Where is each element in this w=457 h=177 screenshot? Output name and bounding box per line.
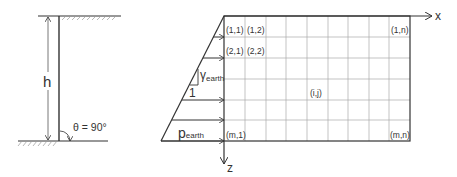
slope-run-label: 1 — [189, 86, 196, 100]
x-axis-label: x — [435, 9, 441, 23]
bottom-ground-hatch — [18, 141, 57, 146]
diagram-canvas: h θ = 90° x z — [0, 0, 457, 177]
height-label: h — [43, 73, 51, 90]
cell-label-m-1: (m,1) — [226, 130, 246, 140]
z-axis-label: z — [227, 161, 233, 175]
retaining-wall-figure: h θ = 90° — [18, 16, 121, 146]
slope-triangle — [190, 69, 198, 85]
cell-label-i-j: (i,j) — [310, 88, 322, 98]
slope-gamma: γearth — [200, 68, 224, 83]
cell-label-2-1: (2,1) — [226, 46, 244, 56]
grid-figure: x z γearth 1 pearth (1,1) (1,2) (2,1) (2… — [161, 9, 441, 175]
cell-label-1-2: (1,2) — [247, 25, 265, 35]
cell-label-1-1: (1,1) — [226, 25, 244, 35]
cell-label-m-n: (m,n) — [390, 130, 410, 140]
angle-arc — [60, 131, 70, 141]
cell-label-2-2: (2,2) — [247, 46, 265, 56]
pressure-label: pearth — [178, 125, 204, 141]
angle-label: θ = 90° — [73, 121, 107, 133]
cell-label-1-n: (1,n) — [391, 25, 409, 35]
